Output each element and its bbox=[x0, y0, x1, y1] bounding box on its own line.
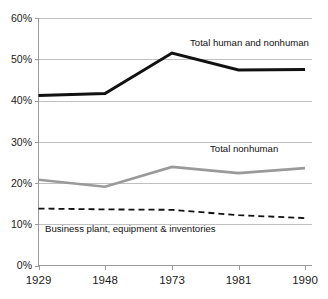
y-axis-label: 60% bbox=[11, 12, 32, 24]
series-annotations-group: Total human and nonhumanTotal nonhumanBu… bbox=[45, 37, 309, 234]
series-annotation-1: Total nonhuman bbox=[210, 143, 278, 154]
y-axis-label: 0% bbox=[17, 259, 32, 271]
x-axis-label: 1948 bbox=[92, 274, 118, 286]
y-axis-label: 20% bbox=[11, 177, 32, 189]
line-chart: 60%50%40%30%20%10%0% 1929194819731981199… bbox=[0, 0, 328, 299]
x-axis-label: 1981 bbox=[226, 274, 252, 286]
series-annotation-2: Business plant, equipment & inventories bbox=[45, 223, 216, 234]
series-annotation-0: Total human and nonhuman bbox=[190, 37, 309, 48]
x-axis-label: 1990 bbox=[292, 274, 318, 286]
series-line-2 bbox=[39, 209, 306, 218]
x-axis-labels-group: 19291948197319811990 bbox=[26, 274, 318, 286]
y-axis-label: 30% bbox=[11, 136, 32, 148]
y-axis-label: 40% bbox=[11, 94, 32, 106]
data-series-group bbox=[39, 53, 306, 218]
y-axis-label: 10% bbox=[11, 218, 32, 230]
gridlines-group bbox=[39, 19, 313, 225]
x-axis-label: 1973 bbox=[159, 274, 185, 286]
chart-canvas: 60%50%40%30%20%10%0% 1929194819731981199… bbox=[0, 0, 328, 299]
x-axis-label: 1929 bbox=[26, 274, 52, 286]
x-tick-marks-group bbox=[40, 266, 306, 271]
y-axis-labels-group: 60%50%40%30%20%10%0% bbox=[11, 12, 32, 272]
y-axis-label: 50% bbox=[11, 53, 32, 65]
